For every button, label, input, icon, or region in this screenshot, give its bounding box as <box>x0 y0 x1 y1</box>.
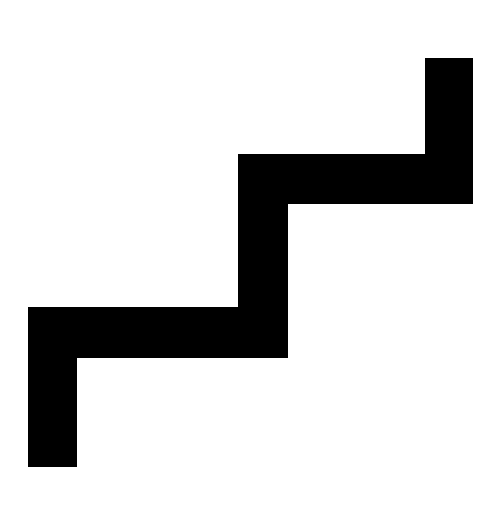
stairs-icon <box>0 0 500 522</box>
icon-canvas <box>0 0 500 522</box>
